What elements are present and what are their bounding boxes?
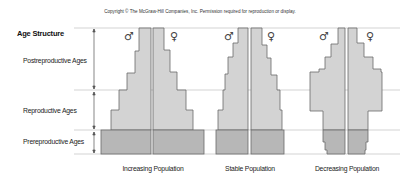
stable-female-base: [251, 130, 284, 154]
stable-male-base: [216, 130, 248, 154]
female-symbol-icon: ♀: [267, 30, 275, 43]
stable-male-upper: [218, 28, 248, 130]
age-structure-diagram: ♂ ♀ ♂ ♀ ♂ ♀: [0, 0, 400, 181]
decreasing-female-base: [348, 130, 368, 154]
male-symbol-icon: ♂: [319, 30, 329, 43]
pyramid-decreasing: [310, 28, 382, 154]
pyramid-increasing: [101, 28, 204, 154]
increasing-male-base: [101, 130, 151, 154]
increasing-female-base: [153, 130, 204, 154]
decreasing-male-upper: [310, 28, 345, 130]
label-increasing-population: Increasing Population: [103, 165, 203, 172]
decreasing-female-upper: [348, 28, 382, 130]
decreasing-male-base: [323, 130, 345, 154]
male-symbol-icon: ♂: [124, 30, 134, 43]
label-stable-population: Stable Population: [200, 165, 300, 172]
stable-female-upper: [251, 28, 282, 130]
increasing-female-upper: [153, 28, 193, 130]
age-axis: [93, 29, 95, 153]
increasing-male-upper: [111, 28, 151, 130]
male-symbol-icon: ♂: [224, 30, 234, 43]
female-symbol-icon: ♀: [170, 30, 178, 43]
pyramid-stable: [216, 28, 284, 154]
female-symbol-icon: ♀: [366, 30, 374, 43]
label-decreasing-population: Decreasing Population: [297, 165, 397, 172]
